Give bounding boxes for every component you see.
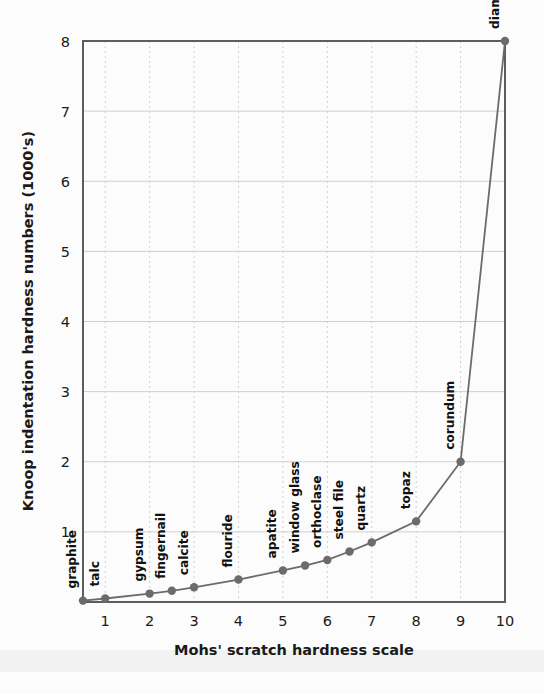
y-tick-label: 2 <box>61 454 70 470</box>
data-point-label: calcite <box>177 530 191 575</box>
data-point-label: window glass <box>288 461 302 553</box>
y-tick-label: 7 <box>61 104 70 120</box>
data-point-label: orthoclase <box>310 476 324 548</box>
data-point-marker <box>101 594 109 602</box>
data-point-label: talc <box>88 561 102 586</box>
y-tick-label: 4 <box>61 314 70 330</box>
x-axis-title: Mohs' scratch hardness scale <box>174 642 414 658</box>
x-tick-label: 7 <box>367 613 376 629</box>
data-point-label: flouride <box>221 514 235 567</box>
x-tick-label: 9 <box>456 613 465 629</box>
chart-page: 12345678 12345678910 graphitetalcgypsumf… <box>0 0 544 694</box>
data-point-label: topaz <box>399 471 413 509</box>
data-point-label: diamond <box>488 0 502 29</box>
x-tick-label: 3 <box>189 613 198 629</box>
y-axis-tick-labels: 12345678 <box>61 34 70 541</box>
data-point-label: apatite <box>265 509 279 558</box>
y-tick-label: 5 <box>61 244 70 260</box>
x-tick-label: 8 <box>412 613 421 629</box>
data-point-marker <box>79 596 87 604</box>
data-point-label: fingernail <box>154 513 168 579</box>
x-axis-tick-labels: 12345678910 <box>101 613 515 629</box>
data-point-labels: graphitetalcgypsumfingernailcalciteflour… <box>66 0 502 589</box>
x-tick-label: 4 <box>234 613 243 629</box>
data-point-marker <box>234 575 242 583</box>
x-tick-label: 1 <box>101 613 110 629</box>
data-point-label: corundum <box>443 381 457 450</box>
data-point-marker <box>368 538 376 546</box>
data-point-marker <box>168 587 176 595</box>
data-point-marker <box>456 458 464 466</box>
data-point-marker <box>323 556 331 564</box>
y-tick-label: 6 <box>61 174 70 190</box>
x-tick-label: 10 <box>496 613 514 629</box>
data-point-marker <box>345 547 353 555</box>
data-point-label: steel file <box>332 480 346 540</box>
hardness-line-chart: 12345678 12345678910 graphitetalcgypsumf… <box>0 0 544 694</box>
data-point-label: quartz <box>354 486 368 531</box>
x-tick-label: 5 <box>278 613 287 629</box>
y-tick-label: 3 <box>61 384 70 400</box>
y-tick-label: 8 <box>61 34 70 50</box>
data-point-marker <box>145 589 153 597</box>
x-tick-label: 2 <box>145 613 154 629</box>
y-axis-title: Knoop indentation hardness numbers (1000… <box>20 131 36 511</box>
data-point-marker <box>412 517 420 525</box>
data-point-marker <box>279 566 287 574</box>
data-point-marker <box>190 583 198 591</box>
data-point-marker <box>501 37 509 45</box>
data-point-label: graphite <box>66 530 80 589</box>
x-tick-label: 6 <box>323 613 332 629</box>
data-point-marker <box>301 561 309 569</box>
data-point-label: gypsum <box>132 528 146 582</box>
